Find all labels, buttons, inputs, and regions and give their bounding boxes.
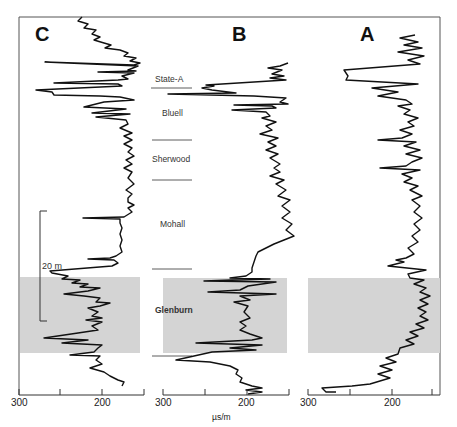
formation-label-glenburn: Glenburn [155, 305, 193, 315]
x-axis-c [19, 389, 144, 395]
x-axis-b [163, 389, 289, 395]
tick-b-200: 200 [238, 397, 255, 408]
formation-label-state-a: State-A [155, 74, 184, 84]
formation-label-mohall: Mohall [160, 219, 185, 229]
tick-a-200: 200 [384, 397, 401, 408]
panel-label-a: A [360, 23, 374, 45]
scale-bar-label: 20 m [42, 261, 62, 271]
formation-label-bluell: Bluell [162, 108, 183, 118]
tick-c-300: 300 [11, 397, 28, 408]
tick-b-300: 300 [155, 397, 172, 408]
well-log-figure: C B A State-A Bluell Sherwood Mohall Gle… [0, 0, 457, 427]
tick-a-300: 300 [300, 397, 317, 408]
panel-label-b: B [232, 23, 246, 45]
x-axis-unit-label: µs/m [212, 412, 231, 422]
panel-label-c: C [35, 23, 49, 45]
tick-c-200: 200 [94, 397, 111, 408]
formation-label-sherwood: Sherwood [152, 154, 191, 164]
